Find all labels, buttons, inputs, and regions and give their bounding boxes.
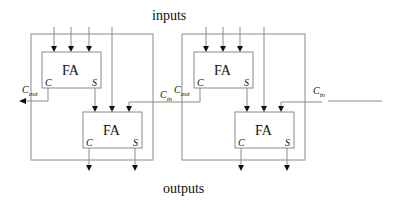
- arrow-left-icon: [19, 98, 26, 104]
- arrow-down-icon: [92, 106, 98, 112]
- arrow-down-icon: [109, 106, 115, 112]
- arrow-down-icon: [51, 46, 57, 52]
- arrow-down-icon: [278, 106, 284, 112]
- right-upper-fa-carry-port: C: [197, 77, 204, 88]
- arrow-down-icon: [244, 106, 250, 112]
- left-lower-fa-carry-port: C: [86, 137, 93, 148]
- left-upper-fa-label: FA: [62, 63, 80, 78]
- inputs-label: inputs: [152, 8, 186, 23]
- arrow-down-icon: [86, 165, 92, 171]
- outputs-label: outputs: [163, 181, 204, 196]
- arrow-down-icon: [126, 106, 132, 112]
- right-lower-fa-carry-port: C: [238, 137, 245, 148]
- left-block: FA C S Cout FA C S: [19, 27, 200, 171]
- left-lower-fa-sum-port: S: [133, 137, 138, 148]
- right-cin-line: [281, 102, 322, 107]
- left-upper-fa-sum-port: S: [92, 77, 97, 88]
- left-cin-label: Cin: [160, 89, 173, 103]
- arrow-down-icon: [261, 106, 267, 112]
- right-lower-fa-label: FA: [255, 123, 273, 138]
- right-cin-label: Cin: [313, 85, 326, 99]
- arrow-down-icon: [132, 165, 138, 171]
- arrow-down-icon: [68, 46, 74, 52]
- arrow-down-icon: [237, 46, 243, 52]
- arrow-down-icon: [238, 165, 244, 171]
- left-upper-fa-carry-port: C: [45, 77, 52, 88]
- right-upper-fa-sum-port: S: [244, 77, 249, 88]
- right-block: FA C S Cout FA C S Cin: [174, 27, 382, 171]
- left-lower-fa-label: FA: [103, 123, 121, 138]
- arrow-down-icon: [284, 165, 290, 171]
- left-cout-label: Cout: [22, 84, 39, 98]
- arrow-down-icon: [86, 46, 92, 52]
- diagram-svg: inputs FA C S Cout: [0, 0, 397, 207]
- full-adder-cascade-diagram: inputs FA C S Cout: [0, 0, 397, 207]
- right-lower-fa-sum-port: S: [285, 137, 290, 148]
- arrow-down-icon: [203, 46, 209, 52]
- arrow-down-icon: [220, 46, 226, 52]
- right-upper-fa-label: FA: [214, 63, 232, 78]
